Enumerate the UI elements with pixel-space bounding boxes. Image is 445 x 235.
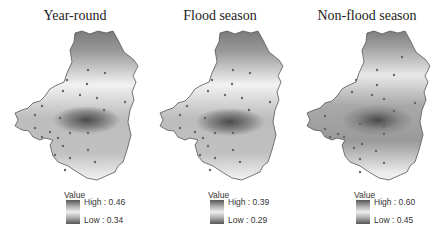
legend-high: High : 0.60 — [374, 197, 415, 207]
panel-flood-season: Flood season Value High : 0.39 Low : 0.2… — [145, 0, 295, 235]
legend-title: Value — [208, 190, 229, 200]
legend-title: Value — [354, 190, 375, 200]
legend-high: High : 0.39 — [228, 197, 269, 207]
legend-low: Low : 0.45 — [374, 215, 413, 225]
legend-swatch — [210, 200, 224, 224]
panel-non-flood-season: Non-flood season Value High : 0.60 Low :… — [292, 0, 442, 235]
panel-year-round: Year-round Value High : 0.46 Low : 0.34 — [0, 0, 150, 235]
legend-high: High : 0.46 — [84, 197, 125, 207]
legend-low: Low : 0.34 — [84, 215, 123, 225]
legend-swatch — [356, 200, 370, 224]
legend-title: Value — [64, 190, 85, 200]
legend-swatch — [66, 200, 80, 224]
legend-low: Low : 0.29 — [228, 215, 267, 225]
